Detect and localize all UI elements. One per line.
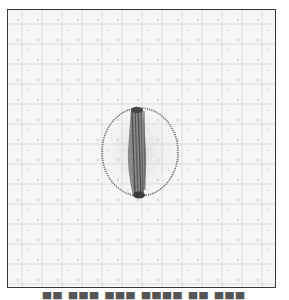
cropped-caption: ▀▀ ▀▀▀ ▀▀▀ ▀▀▀▀ ▀▀ ▀▀▀ xyxy=(0,292,289,300)
embroidered-stitch xyxy=(0,0,289,300)
